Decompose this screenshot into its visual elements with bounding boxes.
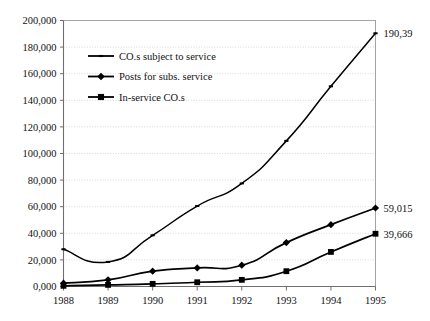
x-axis-tick-label: 1988 <box>53 295 74 306</box>
data-point-marker-dash <box>329 85 333 87</box>
chart-canvas: 0,00020,00040,00060,00080,000100,000120,… <box>0 0 430 321</box>
y-axis-tick-label: 60,000 <box>28 201 57 212</box>
x-axis-tick-label: 1995 <box>365 295 386 306</box>
data-point-marker-dash <box>151 234 155 236</box>
y-axis-tick-label: 160,000 <box>22 68 56 79</box>
y-axis-tick-label: 120,000 <box>22 122 56 133</box>
y-axis-tick-label: 100,000 <box>22 148 56 159</box>
legend-item-label: CO.s subject to service <box>119 51 216 62</box>
data-point-marker-square <box>328 249 334 255</box>
line-chart: 0,00020,00040,00060,00080,000100,000120,… <box>0 0 430 321</box>
y-axis-tick-label: 140,000 <box>22 95 56 106</box>
data-point-marker-dash <box>284 140 288 142</box>
data-point-marker-square <box>98 94 104 100</box>
data-point-marker-square <box>239 277 245 283</box>
y-axis-tick-label: 40,000 <box>28 228 57 239</box>
y-axis-tick-label: 80,000 <box>28 175 57 186</box>
x-axis-tick-label: 1990 <box>142 295 163 306</box>
data-point-marker-square <box>194 279 200 285</box>
legend-item-label: In-service CO.s <box>119 92 185 103</box>
x-axis-tick-label: 1994 <box>320 295 342 306</box>
y-axis-tick-label: 0,000 <box>33 281 57 292</box>
y-axis-tick-label: 20,000 <box>28 255 57 266</box>
x-axis-tick-label: 1991 <box>187 295 208 306</box>
data-point-marker-square <box>105 282 111 288</box>
data-point-marker-square <box>150 281 156 287</box>
data-point-marker-dash <box>240 182 244 184</box>
data-point-marker-dash <box>373 32 377 34</box>
data-point-marker-dash <box>106 261 110 263</box>
legend-item-label: Posts for subs. service <box>119 71 213 82</box>
data-point-marker-square <box>283 268 289 274</box>
data-point-value-label: 190,39 <box>384 28 413 39</box>
x-axis-tick-label: 1989 <box>98 295 119 306</box>
x-axis-tick-label: 1993 <box>276 295 297 306</box>
data-point-value-label: 39,666 <box>384 229 413 240</box>
chart-background <box>0 0 430 321</box>
y-axis-tick-label: 200,000 <box>22 15 56 26</box>
x-axis-tick-label: 1992 <box>231 295 252 306</box>
data-point-marker-dash <box>195 205 199 207</box>
data-point-value-label: 59,015 <box>384 203 413 214</box>
data-point-marker-dash <box>99 55 103 57</box>
y-axis-tick-label: 180,000 <box>22 42 56 53</box>
data-point-marker-square <box>373 231 379 237</box>
data-point-marker-square <box>61 283 67 289</box>
data-point-marker-dash <box>61 248 65 250</box>
